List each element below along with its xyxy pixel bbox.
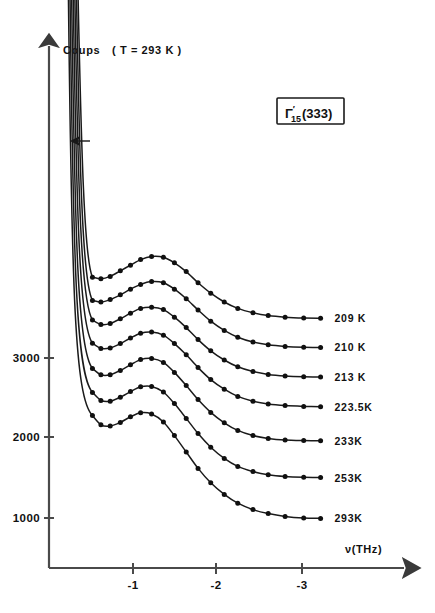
data-point bbox=[90, 341, 95, 346]
data-point bbox=[208, 348, 213, 353]
data-point bbox=[172, 260, 177, 265]
data-point bbox=[149, 412, 154, 417]
data-point bbox=[128, 362, 133, 367]
data-point bbox=[318, 438, 323, 443]
data-point bbox=[301, 404, 306, 409]
series-label: 253K bbox=[335, 472, 363, 484]
data-point bbox=[108, 399, 113, 404]
data-point bbox=[118, 368, 123, 373]
data-point bbox=[161, 280, 166, 285]
data-point bbox=[90, 298, 95, 303]
curve-line bbox=[92, 386, 320, 478]
data-point bbox=[128, 287, 133, 292]
data-point bbox=[118, 420, 123, 425]
data-point bbox=[196, 466, 201, 471]
data-point bbox=[301, 374, 306, 379]
data-point bbox=[90, 413, 95, 418]
data-point bbox=[90, 366, 95, 371]
data-point bbox=[149, 356, 154, 361]
series-293-k bbox=[68, 0, 323, 521]
data-point bbox=[266, 511, 271, 516]
y-tick-label-3000: 3000 bbox=[13, 352, 40, 364]
series-label: 213 K bbox=[335, 371, 367, 383]
data-point bbox=[283, 474, 288, 479]
data-point bbox=[172, 433, 177, 438]
data-point bbox=[138, 331, 143, 336]
series-label-layer: 209 K210 K213 K223.5K233K253K293K bbox=[335, 312, 373, 524]
data-point bbox=[301, 345, 306, 350]
data-point bbox=[250, 369, 255, 374]
data-point bbox=[98, 276, 103, 281]
data-point bbox=[184, 325, 189, 330]
data-point bbox=[172, 401, 177, 406]
data-point bbox=[208, 377, 213, 382]
data-point bbox=[235, 394, 240, 399]
data-point bbox=[161, 390, 166, 395]
data-point bbox=[318, 516, 323, 521]
data-point bbox=[222, 387, 227, 392]
data-point bbox=[98, 372, 103, 377]
data-point bbox=[235, 335, 240, 340]
data-point bbox=[318, 345, 323, 350]
data-point bbox=[222, 358, 227, 363]
data-point bbox=[98, 322, 103, 327]
data-point bbox=[283, 374, 288, 379]
data-point bbox=[283, 315, 288, 320]
data-point bbox=[90, 275, 95, 280]
data-point bbox=[128, 311, 133, 316]
data-point bbox=[283, 403, 288, 408]
data-point bbox=[222, 300, 227, 305]
data-point bbox=[250, 340, 255, 345]
y-tick-label-2000: 2000 bbox=[13, 431, 40, 443]
y-tick-label-1000: 1000 bbox=[13, 512, 40, 524]
x-tick-label-minus1: -1 bbox=[127, 579, 138, 591]
data-point bbox=[266, 372, 271, 377]
data-point bbox=[208, 480, 213, 485]
data-point bbox=[161, 420, 166, 425]
data-point bbox=[108, 372, 113, 377]
data-point bbox=[235, 501, 240, 506]
data-point bbox=[138, 257, 143, 262]
data-point bbox=[250, 399, 255, 404]
svg-text:Γ′15(333): Γ′15(333) bbox=[285, 104, 332, 124]
data-point bbox=[222, 328, 227, 333]
data-point bbox=[108, 274, 113, 279]
data-point bbox=[184, 450, 189, 455]
data-point bbox=[172, 287, 177, 292]
data-point bbox=[266, 342, 271, 347]
data-point bbox=[196, 280, 201, 285]
data-point bbox=[318, 375, 323, 380]
series-layer bbox=[68, 0, 323, 521]
data-point bbox=[250, 310, 255, 315]
x-axis-title: ν(THz) bbox=[345, 543, 382, 555]
data-point bbox=[108, 424, 113, 429]
data-point bbox=[149, 384, 154, 389]
data-point bbox=[184, 296, 189, 301]
data-point bbox=[235, 428, 240, 433]
data-point bbox=[184, 269, 189, 274]
data-point bbox=[208, 291, 213, 296]
series-label: 293K bbox=[335, 512, 363, 524]
data-point bbox=[128, 336, 133, 341]
data-point bbox=[196, 308, 201, 313]
data-point bbox=[118, 395, 123, 400]
data-point bbox=[90, 318, 95, 323]
data-point bbox=[138, 357, 143, 362]
series-label: 223.5K bbox=[335, 401, 373, 413]
data-point bbox=[138, 282, 143, 287]
data-point bbox=[128, 389, 133, 394]
data-point bbox=[266, 402, 271, 407]
data-point bbox=[128, 414, 133, 419]
data-point bbox=[118, 316, 123, 321]
data-point bbox=[266, 313, 271, 318]
data-point bbox=[222, 420, 227, 425]
curve-line bbox=[92, 256, 320, 318]
data-point bbox=[283, 438, 288, 443]
data-point bbox=[301, 475, 306, 480]
data-point bbox=[98, 346, 103, 351]
data-point bbox=[108, 297, 113, 302]
data-point bbox=[208, 410, 213, 415]
data-point bbox=[266, 472, 271, 477]
data-point bbox=[208, 319, 213, 324]
data-point bbox=[172, 341, 177, 346]
